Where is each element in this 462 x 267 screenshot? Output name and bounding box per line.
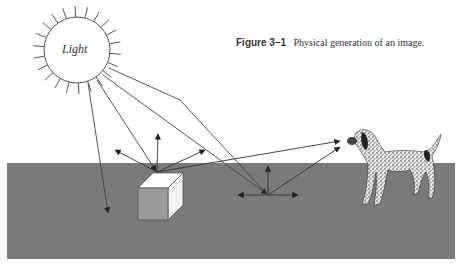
figure-caption: Figure 3–1 Physical generation of an ima…: [236, 37, 424, 48]
ground-plane: [7, 163, 455, 259]
sun-label: Light: [62, 42, 87, 57]
figure-caption-text: Physical generation of an image.: [294, 37, 425, 48]
figure-number: Figure 3–1: [236, 37, 286, 48]
